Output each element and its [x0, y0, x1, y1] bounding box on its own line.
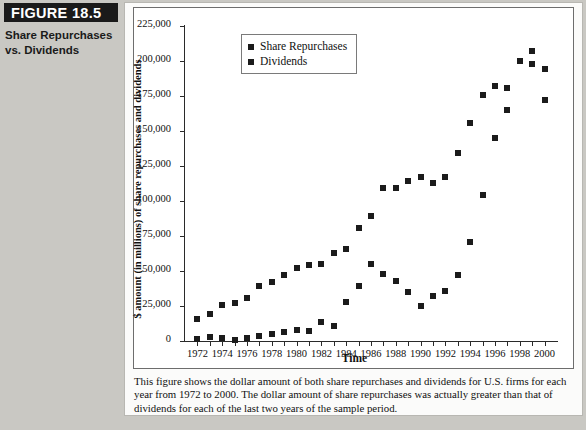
data-point [504, 107, 510, 113]
data-point [194, 316, 200, 322]
data-point [529, 61, 535, 67]
data-point [430, 293, 436, 299]
x-axis-tick [247, 341, 248, 346]
plot-area: 025,00050,00075,000100,000125,000150,000… [185, 26, 557, 341]
data-point [256, 333, 262, 339]
data-point [418, 174, 424, 180]
legend-label: Dividends [260, 54, 307, 69]
x-axis-tick [371, 341, 372, 346]
y-axis-tick: 200,000 [180, 61, 185, 62]
data-point [207, 311, 213, 317]
figure-label-column: FIGURE 18.5 Share Repurchasesvs. Dividen… [0, 0, 122, 430]
legend-label: Share Repurchases [260, 39, 347, 54]
y-axis-tick-label: 150,000 [137, 123, 171, 134]
y-axis-tick: 150,000 [180, 131, 185, 132]
data-point [331, 250, 337, 256]
x-axis-tick [396, 341, 397, 346]
data-point [405, 289, 411, 295]
legend-item-share-repurchases: Share Repurchases [248, 39, 347, 54]
data-point [542, 66, 548, 72]
x-axis-tick [297, 341, 298, 346]
data-point [542, 97, 548, 103]
y-axis-tick-label: 225,000 [137, 18, 171, 29]
data-point [244, 335, 250, 341]
data-point [331, 323, 337, 329]
data-point [343, 299, 349, 305]
x-axis-tick [495, 341, 496, 346]
data-point [380, 271, 386, 277]
data-point [442, 174, 448, 180]
chart-legend: Share Repurchases Dividends [241, 34, 357, 74]
data-point [306, 328, 312, 334]
x-axis-tick [210, 341, 211, 346]
data-point [269, 279, 275, 285]
x-axis-tick [222, 341, 223, 346]
x-axis-tick [408, 341, 409, 346]
data-point [480, 192, 486, 198]
y-axis-tick: 125,000 [180, 166, 185, 167]
data-point [219, 302, 225, 308]
data-point [368, 213, 374, 219]
data-point [356, 283, 362, 289]
square-marker-icon [248, 59, 254, 65]
data-point [393, 185, 399, 191]
x-axis-tick [445, 341, 446, 346]
x-axis-tick [507, 341, 508, 346]
x-axis-tick [532, 341, 533, 346]
y-axis-tick: 50,000 [180, 271, 185, 272]
x-axis-tick [259, 341, 260, 346]
y-axis-tick: 225,000 [180, 26, 185, 27]
data-point [517, 58, 523, 64]
data-point [194, 336, 200, 342]
x-axis-tick [545, 341, 546, 346]
y-axis-tick-label: 0 [166, 333, 171, 344]
data-point [480, 92, 486, 98]
x-axis-tick [321, 341, 322, 346]
x-axis-tick [470, 341, 471, 346]
data-point [529, 48, 535, 54]
data-point [269, 331, 275, 337]
figure-panel: $ amount (in millions) of share repurcha… [122, 0, 586, 430]
figure-number-banner: FIGURE 18.5 [4, 3, 118, 22]
data-point [455, 272, 461, 278]
y-axis-tick: 0 [180, 341, 185, 342]
data-point [492, 135, 498, 141]
y-axis-tick-label: 75,000 [142, 228, 171, 239]
data-point [418, 303, 424, 309]
data-point [294, 327, 300, 333]
data-point [405, 178, 411, 184]
y-axis-tick-label: 175,000 [137, 88, 171, 99]
y-axis-tick-label: 50,000 [142, 263, 171, 274]
x-axis-tick [334, 341, 335, 346]
data-point [244, 295, 250, 301]
y-axis-tick: 75,000 [180, 236, 185, 237]
y-axis-tick-label: 100,000 [137, 193, 171, 204]
data-point [504, 85, 510, 91]
data-point [380, 185, 386, 191]
data-point [294, 265, 300, 271]
x-axis-tick [483, 341, 484, 346]
data-point [467, 120, 473, 126]
data-point [393, 278, 399, 284]
figure-title: Share Repurchasesvs. Dividends [5, 28, 117, 58]
data-point [281, 329, 287, 335]
data-point [318, 319, 324, 325]
data-point [318, 261, 324, 267]
x-axis-tick [383, 341, 384, 346]
square-marker-icon [248, 44, 254, 50]
data-point [232, 300, 238, 306]
x-axis-tick [433, 341, 434, 346]
x-axis-tick [272, 341, 273, 346]
figure-panel-surface: $ amount (in millions) of share repurcha… [125, 3, 582, 415]
data-point [207, 334, 213, 340]
y-axis-tick-label: 25,000 [142, 298, 171, 309]
x-axis-tick [458, 341, 459, 346]
data-point [442, 288, 448, 294]
data-point [219, 335, 225, 341]
chart-frame: $ amount (in millions) of share repurcha… [133, 7, 574, 369]
data-point [356, 225, 362, 231]
data-point [492, 83, 498, 89]
y-axis-tick: 100,000 [180, 201, 185, 202]
x-axis-title: Time [134, 352, 575, 364]
x-axis-tick [346, 341, 347, 346]
